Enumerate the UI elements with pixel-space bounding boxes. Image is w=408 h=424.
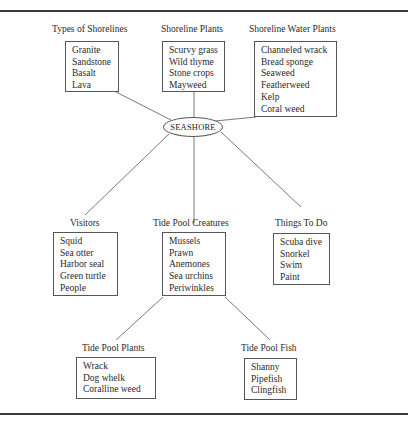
list-item: Sea otter xyxy=(60,248,111,260)
node-title-tide-pool-creatures: Tide Pool Creatures xyxy=(153,218,229,228)
node-box-tide-pool-plants: Wrack Dog whelk Coralline weed xyxy=(76,357,156,399)
node-title-tide-pool-plants: Tide Pool Plants xyxy=(82,343,144,353)
list-item: Dog whelk xyxy=(83,373,149,385)
node-title-tide-pool-fish: Tide Pool Fish xyxy=(241,343,297,353)
list-item: Snorkel xyxy=(280,249,323,261)
node-box-shoreline-water-plants: Channeled wrack Bread sponge Seaweed Fea… xyxy=(254,41,337,117)
list-item: Scurvy grass xyxy=(169,45,218,57)
list-item: Coralline weed xyxy=(83,384,149,396)
node-title-things-to-do: Things To Do xyxy=(275,218,327,228)
list-item: Bread sponge xyxy=(261,57,330,69)
list-item: Swim xyxy=(280,260,323,272)
list-item: Featherweed xyxy=(261,80,330,92)
list-item: Prawn xyxy=(169,248,219,260)
node-box-things-to-do: Scuba dive Snorkel Swim Paint xyxy=(273,233,330,285)
list-item: Sea urchins xyxy=(169,271,219,283)
connector-visitors xyxy=(85,134,169,215)
list-item: Mayweed xyxy=(169,80,218,92)
list-item: Paint xyxy=(280,272,323,284)
connector-things-to-do xyxy=(221,132,301,207)
connector-tide-pool-fish xyxy=(225,297,270,340)
list-item: Wild thyme xyxy=(169,57,218,69)
node-box-shoreline-plants: Scurvy grass Wild thyme Stone crops Mayw… xyxy=(162,41,225,92)
list-item: Sandstone xyxy=(72,57,112,69)
connector-tide-pool-plants xyxy=(116,297,163,340)
node-box-visitors: Squid Sea otter Harbor seal Green turtle… xyxy=(53,232,118,296)
list-item: Wrack xyxy=(83,361,149,373)
list-item: Stone crops xyxy=(169,68,218,80)
list-item: Basalt xyxy=(72,68,112,80)
list-item: Anemones xyxy=(169,259,219,271)
node-title-shoreline-plants: Shoreline Plants xyxy=(161,24,223,34)
node-box-types-of-shorelines: Granite Sandstone Basalt Lava xyxy=(65,41,119,92)
list-item: Coral weed xyxy=(261,104,330,116)
list-item: People xyxy=(60,283,111,295)
connector-shoreline-water-plants xyxy=(215,117,256,121)
list-item: Green turtle xyxy=(60,271,111,283)
list-item: Periwinkles xyxy=(169,283,219,295)
list-item: Kelp xyxy=(261,92,330,104)
list-item: Pipefish xyxy=(251,374,290,386)
list-item: Channeled wrack xyxy=(261,45,330,57)
list-item: Lava xyxy=(72,80,112,92)
node-title-types-of-shorelines: Types of Shorelines xyxy=(52,24,127,34)
connector-types-of-shorelines xyxy=(116,92,171,120)
list-item: Shanny xyxy=(251,362,290,374)
list-item: Harbor seal xyxy=(60,259,111,271)
center-node-seashore: SEASHORE xyxy=(163,117,223,137)
list-item: Granite xyxy=(72,45,112,57)
list-item: Squid xyxy=(60,236,111,248)
list-item: Mussels xyxy=(169,236,219,248)
node-title-visitors: Visitors xyxy=(70,218,100,228)
list-item: Seaweed xyxy=(261,68,330,80)
node-box-tide-pool-creatures: Mussels Prawn Anemones Sea urchins Periw… xyxy=(162,232,226,296)
node-box-tide-pool-fish: Shanny Pipefish Clingfish xyxy=(244,358,297,400)
list-item: Clingfish xyxy=(251,385,290,397)
node-title-shoreline-water-plants: Shoreline Water Plants xyxy=(249,24,336,34)
list-item: Scuba dive xyxy=(280,237,323,249)
